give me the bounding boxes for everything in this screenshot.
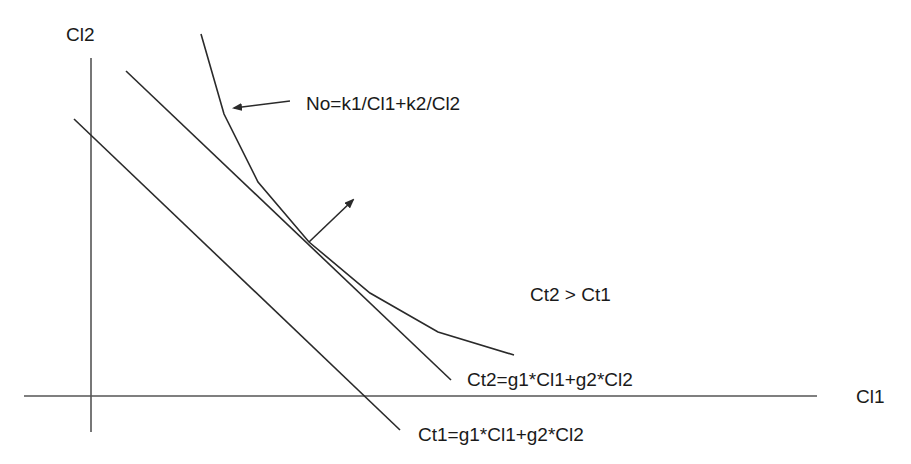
y-axis-label: Cl2 <box>66 24 95 45</box>
ct2-equation-label: Ct2=g1*Cl1+g2*Cl2 <box>467 369 633 390</box>
cost-isoquant-diagram: Cl2 Cl1 No=k1/Cl1+k2/Cl2 Ct2 > Ct1 Ct2=g… <box>0 0 911 464</box>
region-label: Ct2 > Ct1 <box>530 284 611 305</box>
ct1-equation-label: Ct1=g1*Cl1+g2*Cl2 <box>418 424 584 445</box>
curve-pointer-arrow <box>234 101 290 108</box>
ct1-cost-line <box>74 119 400 430</box>
ct2-cost-line <box>126 71 451 380</box>
normal-arrow <box>309 200 353 242</box>
curve-equation-label: No=k1/Cl1+k2/Cl2 <box>306 93 460 114</box>
isoquant-curve <box>201 34 514 355</box>
x-axis-label: Cl1 <box>856 386 885 407</box>
